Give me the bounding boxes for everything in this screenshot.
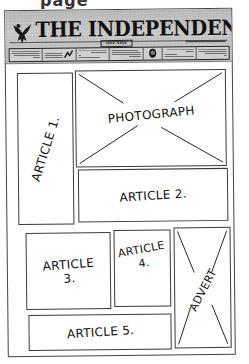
article-4-box: ARTICLE 4. [113,229,171,307]
teaser-text-lines [165,49,193,57]
teaser-illustration-icon [63,49,73,58]
article-2-box: ARTICLE 2. [78,168,229,223]
teaser-photo-icon [149,49,156,58]
dateline-right-text [186,39,226,43]
masthead-title: THE INDEPENDENT [35,15,231,42]
masthead: THE INDEPENDENT ONE NINE [5,9,232,64]
teaser-item [43,48,76,60]
article-5-box: ARTICLE 5. [28,313,171,350]
article-1-label: ARTICLE 1. [29,115,63,184]
article-3-label-group: ARTICLE 3. [42,255,95,287]
newspaper-page-outline: THE INDEPENDENT ONE NINE [4,8,236,357]
article-5-label: ARTICLE 5. [66,323,134,341]
teaser-item [163,47,196,59]
article-1-box: ARTICLE 1. [17,72,75,225]
teaser-text-lines [45,51,62,59]
advert-box: ADVERT [173,227,231,349]
teaser-text-lines [12,51,40,59]
teaser-text-lines [198,49,226,57]
photograph-box: PHOTOGRAPH [75,69,227,168]
teaser-item [110,48,143,60]
teaser-item [10,49,43,61]
teaser-text-lines [78,50,106,58]
teaser-text-lines [112,50,140,58]
article-3-box: ARTICLE 3. [26,232,112,310]
teaser-strip [9,46,230,62]
teaser-item [196,47,228,59]
teaser-item [143,48,163,60]
teaser-item [76,48,109,60]
article-2-label: ARTICLE 2. [119,186,187,204]
article-4-label-group: ARTICLE 4. [117,239,169,275]
